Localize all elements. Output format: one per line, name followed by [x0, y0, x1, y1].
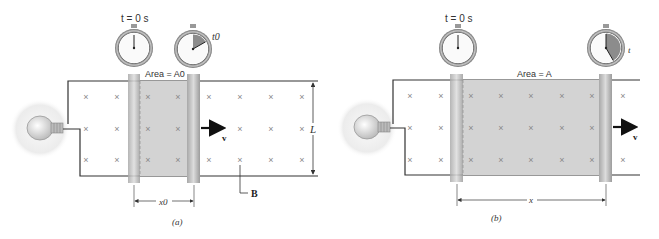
- stopwatch-start-label: t = 0 s: [445, 13, 473, 24]
- moving-rod: [187, 74, 200, 183]
- svg-text:×: ×: [498, 91, 503, 101]
- svg-text:×: ×: [498, 123, 503, 133]
- svg-text:×: ×: [206, 92, 211, 102]
- length-label: L: [309, 123, 316, 135]
- svg-text:×: ×: [589, 123, 594, 133]
- svg-text:×: ×: [559, 91, 564, 101]
- stopwatch-end-label: t: [628, 45, 631, 55]
- svg-text:×: ×: [620, 155, 625, 165]
- svg-text:×: ×: [83, 124, 88, 134]
- svg-text:×: ×: [114, 92, 119, 102]
- stopwatch-start-label: t = 0 s: [121, 13, 149, 24]
- stopwatch-t-icon: [587, 24, 625, 67]
- svg-text:×: ×: [528, 91, 533, 101]
- faraday-law-diagram: ×××××××× ××××××× ×××××××× v L B x0 Area …: [0, 0, 659, 239]
- panel-b-caption: (b): [491, 213, 502, 223]
- svg-text:×: ×: [175, 124, 180, 134]
- svg-text:×: ×: [468, 123, 473, 133]
- svg-text:×: ×: [620, 91, 625, 101]
- svg-text:×: ×: [237, 155, 242, 165]
- svg-text:×: ×: [145, 124, 150, 134]
- displacement-label: x: [528, 195, 533, 205]
- area-label: Area = A: [517, 69, 552, 79]
- svg-text:×: ×: [438, 91, 443, 101]
- stopwatch-end-label: t0: [212, 31, 220, 42]
- svg-text:×: ×: [206, 155, 211, 165]
- svg-text:×: ×: [145, 92, 150, 102]
- svg-text:×: ×: [407, 91, 412, 101]
- rod-initial-position: [128, 74, 140, 183]
- panel-b: ×××××××× ××××××× ×××××××× v x Area = A t…: [337, 13, 640, 223]
- svg-text:×: ×: [114, 155, 119, 165]
- stopwatch-t0-icon: [174, 24, 212, 68]
- svg-text:×: ×: [438, 123, 443, 133]
- svg-text:×: ×: [175, 155, 180, 165]
- svg-text:×: ×: [268, 155, 273, 165]
- svg-text:×: ×: [559, 155, 564, 165]
- svg-text:×: ×: [468, 155, 473, 165]
- light-bulb-icon: [10, 99, 70, 159]
- velocity-label: v: [633, 132, 638, 142]
- svg-text:×: ×: [528, 123, 533, 133]
- svg-text:×: ×: [83, 155, 88, 165]
- svg-text:×: ×: [114, 124, 119, 134]
- svg-text:×: ×: [528, 155, 533, 165]
- svg-text:×: ×: [299, 124, 304, 134]
- field-label: B: [251, 188, 258, 199]
- svg-text:×: ×: [175, 92, 180, 102]
- moving-rod: [599, 74, 612, 182]
- displacement-label: x0: [158, 197, 168, 207]
- svg-text:×: ×: [468, 91, 473, 101]
- svg-text:×: ×: [237, 124, 242, 134]
- svg-text:×: ×: [589, 155, 594, 165]
- svg-text:×: ×: [299, 155, 304, 165]
- light-bulb-icon: [337, 98, 397, 158]
- panel-a-caption: (a): [172, 217, 183, 227]
- svg-text:×: ×: [268, 124, 273, 134]
- svg-text:×: ×: [407, 123, 412, 133]
- velocity-label: v: [222, 133, 227, 143]
- svg-text:×: ×: [498, 155, 503, 165]
- svg-text:×: ×: [237, 92, 242, 102]
- rod-initial-position: [450, 74, 463, 182]
- svg-text:×: ×: [145, 155, 150, 165]
- stopwatch-start-icon: [115, 24, 153, 67]
- svg-text:×: ×: [589, 91, 594, 101]
- svg-text:×: ×: [559, 123, 564, 133]
- svg-text:×: ×: [268, 92, 273, 102]
- panel-a: ×××××××× ××××××× ×××××××× v L B x0 Area …: [10, 13, 319, 227]
- svg-text:×: ×: [83, 92, 88, 102]
- stopwatch-start-icon: [439, 24, 477, 67]
- svg-text:×: ×: [299, 92, 304, 102]
- svg-text:×: ×: [438, 155, 443, 165]
- svg-text:×: ×: [407, 155, 412, 165]
- area-label: Area = A0: [145, 69, 185, 79]
